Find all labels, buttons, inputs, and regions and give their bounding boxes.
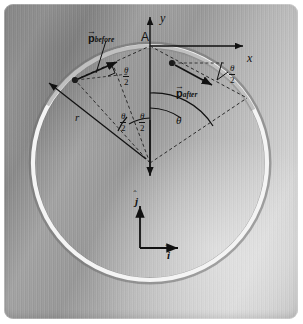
theta-half-denominator: 2: [229, 76, 235, 85]
x-axis-label: x: [247, 52, 252, 64]
y-axis-label: y: [160, 12, 165, 24]
theta-label: θ: [176, 115, 181, 126]
theta-half-label-after: θ 2: [229, 64, 235, 86]
unit-vector-axes: [140, 206, 178, 248]
theta-half-denominator: 2: [139, 124, 145, 133]
unit-vector-i-symbol: i: [167, 249, 170, 261]
radius-arrow: [49, 83, 146, 159]
point-a-label: A: [141, 31, 149, 43]
momentum-before-subscript: before: [95, 35, 115, 44]
vector-arrow-accent-before: →: [87, 27, 96, 36]
theta-half-denominator: 2: [123, 78, 129, 87]
vector-arrow-accent-after: →: [175, 82, 184, 91]
theta-half-numerator: θ: [123, 66, 129, 75]
theta-half-numerator: θ: [120, 112, 126, 121]
theta-half-numerator: θ: [229, 64, 235, 73]
before-angle-tick: [108, 66, 115, 76]
unit-vector-j-symbol: j: [135, 195, 138, 207]
theta-half-label-tangent: θ 2: [123, 66, 129, 88]
momentum-after-subscript: after: [183, 90, 198, 99]
theta-half-label-center-left: θ 2: [120, 112, 126, 134]
unit-vector-j-label: ̂ j: [135, 196, 138, 207]
radius-label: r: [75, 112, 79, 123]
momentum-after-label: → p after: [176, 88, 197, 99]
radius-line-to-after: [150, 98, 247, 163]
angle-arcs: [118, 93, 213, 131]
diagram-vector-layer: [0, 0, 303, 324]
theta-half-label-center-right: θ 2: [139, 112, 145, 134]
momentum-before-label: → p before: [88, 33, 114, 44]
theta-half-numerator: θ: [139, 112, 145, 121]
theta-half-denominator: 2: [120, 124, 126, 133]
unit-vector-i-label: ̂ i: [167, 250, 170, 261]
physics-diagram-figure: A y x r → p before → p after θ 2 θ 2: [0, 0, 303, 324]
